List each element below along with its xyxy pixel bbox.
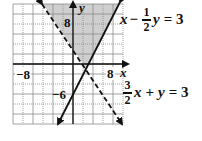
eq1-rhs: = 3 [164,11,184,28]
eq2-var1: x [134,84,142,101]
eq2-den: 2 [125,95,131,106]
eq2-fraction: 3 2 [123,80,132,106]
equation-dashed-line: 3 2 x + y = 3 [121,80,189,106]
y-tick-label-8: 8 [63,16,72,29]
eq2-num: 3 [125,80,131,91]
eq1-var2: y [153,11,160,28]
eq1-op: − [130,11,139,28]
eq1-num: 1 [144,7,150,18]
eq2-var2: y [158,84,165,101]
eq2-op: + [146,84,155,101]
equation-solid-line: x − 1 2 y = 3 [120,7,184,33]
x-tick-label-neg8: −8 [15,68,31,81]
eq1-fraction: 1 2 [142,7,151,33]
x-tick-label-8: 8 [106,67,115,80]
eq2-rhs: = 3 [169,84,189,101]
eq1-var1: x [120,11,128,28]
y-axis-label: y [78,1,86,14]
y-tick-label-neg6: −6 [51,88,67,101]
eq1-den: 2 [144,22,150,33]
